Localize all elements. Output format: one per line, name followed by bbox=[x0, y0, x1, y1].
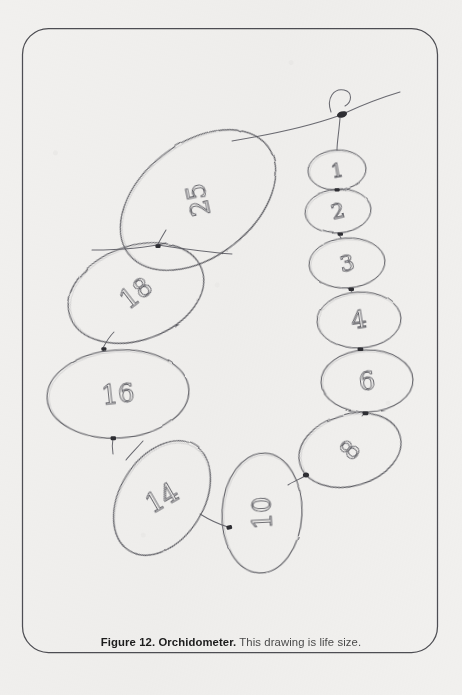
bead-number-3: 3 bbox=[337, 249, 357, 277]
bead-8: 8 bbox=[290, 401, 410, 499]
bead-number-10: 10 bbox=[246, 496, 278, 531]
figure-caption-text: This drawing is life size. bbox=[239, 636, 361, 648]
bead-number-1: 1 bbox=[329, 158, 345, 182]
bead-number-18: 18 bbox=[114, 271, 159, 315]
bead-10: 10 bbox=[219, 451, 305, 575]
bead-group: 1234681014161825 bbox=[44, 101, 414, 575]
knot-connectors bbox=[101, 110, 368, 530]
bead-16: 16 bbox=[44, 345, 192, 443]
bead-number-25: 25 bbox=[180, 181, 216, 220]
orchidometer-drawing: 1234681014161825 bbox=[0, 0, 462, 695]
bead-25: 25 bbox=[94, 101, 303, 299]
figure-caption: Figure 12. Orchidometer. This drawing is… bbox=[0, 635, 462, 650]
bead-number-8: 8 bbox=[333, 434, 367, 466]
bead-3: 3 bbox=[307, 235, 386, 290]
page-border bbox=[23, 29, 438, 653]
figure-page: 1234681014161825 Figure 12. Orchidometer… bbox=[0, 0, 462, 695]
bead-14: 14 bbox=[93, 423, 230, 573]
bead-2: 2 bbox=[303, 186, 373, 236]
bead-number-16: 16 bbox=[100, 377, 136, 410]
bead-number-2: 2 bbox=[329, 198, 347, 224]
bead-number-4: 4 bbox=[349, 305, 368, 335]
bead-1: 1 bbox=[307, 148, 368, 192]
bead-number-6: 6 bbox=[357, 365, 377, 397]
figure-caption-label: Figure 12. Orchidometer. bbox=[101, 636, 237, 648]
bead-4: 4 bbox=[316, 290, 403, 350]
bead-18: 18 bbox=[54, 225, 218, 361]
bead-6: 6 bbox=[320, 348, 414, 413]
bead-number-14: 14 bbox=[140, 477, 184, 520]
